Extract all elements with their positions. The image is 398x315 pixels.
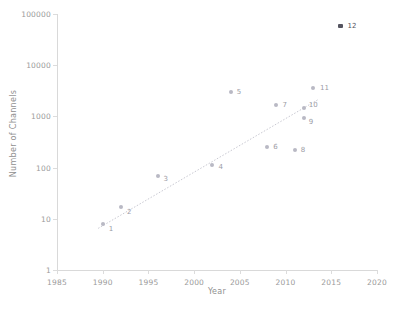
data-point-label: 4 [218, 163, 222, 171]
y-tick-mark [53, 65, 57, 66]
y-tick-label: 1 [46, 266, 51, 275]
data-point[interactable] [101, 222, 105, 226]
y-tick-mark [53, 14, 57, 15]
y-axis-title: Number of Channels [9, 69, 18, 199]
data-point-label: 1 [109, 225, 113, 233]
data-point-label: 12 [347, 22, 356, 30]
data-point[interactable] [311, 86, 315, 90]
data-point[interactable] [338, 24, 343, 29]
data-point[interactable] [265, 145, 269, 149]
x-tick-label: 1995 [128, 278, 168, 287]
x-axis-line [57, 270, 377, 271]
data-point-label: 7 [282, 101, 286, 109]
x-tick-label: 2005 [220, 278, 260, 287]
data-point-label: 10 [309, 101, 318, 109]
x-axis-title: Year [57, 287, 377, 296]
x-tick-label: 1990 [83, 278, 123, 287]
data-point[interactable] [293, 148, 297, 152]
chart-page: 19851990199520002005201020152020 1101001… [0, 0, 398, 315]
data-point-label: 5 [237, 88, 241, 96]
x-tick-mark [240, 270, 241, 274]
x-tick-label: 2015 [311, 278, 351, 287]
data-point[interactable] [210, 163, 214, 167]
data-point-label: 8 [301, 146, 305, 154]
y-tick-label: 10 [41, 214, 51, 223]
x-tick-mark [103, 270, 104, 274]
data-point-label: 9 [309, 118, 313, 126]
y-tick-mark [53, 270, 57, 271]
data-point-label: 6 [273, 143, 277, 151]
y-tick-label: 100 [36, 163, 51, 172]
x-tick-mark [148, 270, 149, 274]
data-point[interactable] [119, 205, 123, 209]
y-tick-mark [53, 116, 57, 117]
x-tick-label: 2010 [266, 278, 306, 287]
data-point[interactable] [302, 116, 306, 120]
data-point[interactable] [302, 106, 306, 110]
trend-line [57, 14, 377, 270]
x-tick-mark [57, 270, 58, 274]
x-tick-mark [331, 270, 332, 274]
y-tick-mark [53, 219, 57, 220]
data-point-label: 11 [320, 84, 329, 92]
x-tick-mark [377, 270, 378, 274]
y-tick-label: 100000 [21, 10, 51, 19]
plot-area: 19851990199520002005201020152020 1101001… [57, 14, 377, 270]
y-tick-label: 10000 [26, 61, 51, 70]
data-point-label: 3 [164, 175, 168, 183]
data-point[interactable] [229, 90, 233, 94]
x-tick-mark [286, 270, 287, 274]
data-point[interactable] [156, 174, 160, 178]
y-axis-line [57, 14, 58, 270]
y-tick-mark [53, 168, 57, 169]
x-tick-mark [194, 270, 195, 274]
data-point-label: 2 [127, 208, 131, 216]
x-tick-label: 2000 [174, 278, 214, 287]
x-tick-label: 2020 [357, 278, 397, 287]
x-tick-label: 1985 [37, 278, 77, 287]
y-tick-label: 1000 [31, 112, 51, 121]
data-point[interactable] [274, 103, 278, 107]
